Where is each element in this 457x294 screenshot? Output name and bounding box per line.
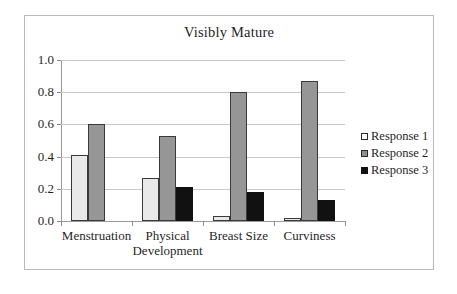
bar-2-4 [301, 81, 318, 221]
y-tick-mark [57, 124, 61, 125]
x-tick-mark [61, 221, 62, 226]
category-label-line: Menstruation [61, 228, 132, 243]
x-tick-mark [132, 221, 133, 226]
y-tick-label: 0.2 [38, 181, 54, 197]
gridline [61, 60, 345, 61]
category-label-4: Curviness [274, 228, 345, 243]
bar-2-2 [159, 136, 176, 221]
category-label-line: Development [132, 243, 203, 258]
plot-area: 0.00.20.40.60.81.0 [61, 60, 345, 221]
y-tick-mark [57, 189, 61, 190]
bar-1-1 [71, 155, 88, 221]
legend-swatch-response-1 [361, 133, 368, 140]
legend-label-3: Response 3 [371, 163, 428, 178]
bar-1-3 [213, 216, 230, 221]
x-tick-mark [345, 221, 346, 226]
y-tick-label: 0.6 [38, 116, 54, 132]
bar-2-3 [230, 92, 247, 221]
y-tick-mark [57, 60, 61, 61]
chart-figure: Visibly Mature 0.00.20.40.60.81.0 Menstr… [0, 0, 457, 294]
bar-3-3 [247, 192, 264, 221]
chart-legend: Response 1Response 2Response 3 [361, 128, 431, 179]
legend-label-1: Response 1 [371, 129, 428, 144]
y-tick-mark [57, 157, 61, 158]
y-tick-label: 0.4 [38, 149, 54, 165]
legend-item-3[interactable]: Response 3 [361, 162, 431, 179]
legend-label-2: Response 2 [371, 146, 428, 161]
legend-item-2[interactable]: Response 2 [361, 145, 431, 162]
bar-1-4 [284, 218, 301, 221]
y-tick-mark [57, 92, 61, 93]
category-label-3: Breast Size [203, 228, 274, 243]
y-axis-line [61, 60, 62, 221]
legend-swatch-response-2 [361, 150, 368, 157]
category-label-1: Menstruation [61, 228, 132, 243]
y-tick-label: 0.0 [38, 213, 54, 229]
bar-3-4 [318, 200, 335, 221]
bar-3-2 [176, 187, 193, 221]
x-tick-mark [203, 221, 204, 226]
legend-swatch-response-3 [361, 167, 368, 174]
category-label-line: Curviness [274, 228, 345, 243]
x-tick-mark [274, 221, 275, 226]
y-tick-label: 1.0 [38, 52, 54, 68]
bar-2-1 [88, 124, 105, 221]
category-label-line: Breast Size [203, 228, 274, 243]
category-label-line: Physical [132, 228, 203, 243]
legend-item-1[interactable]: Response 1 [361, 128, 431, 145]
chart-title: Visibly Mature [24, 24, 434, 41]
bar-1-2 [142, 178, 159, 221]
y-tick-label: 0.8 [38, 84, 54, 100]
category-label-2: PhysicalDevelopment [132, 228, 203, 258]
